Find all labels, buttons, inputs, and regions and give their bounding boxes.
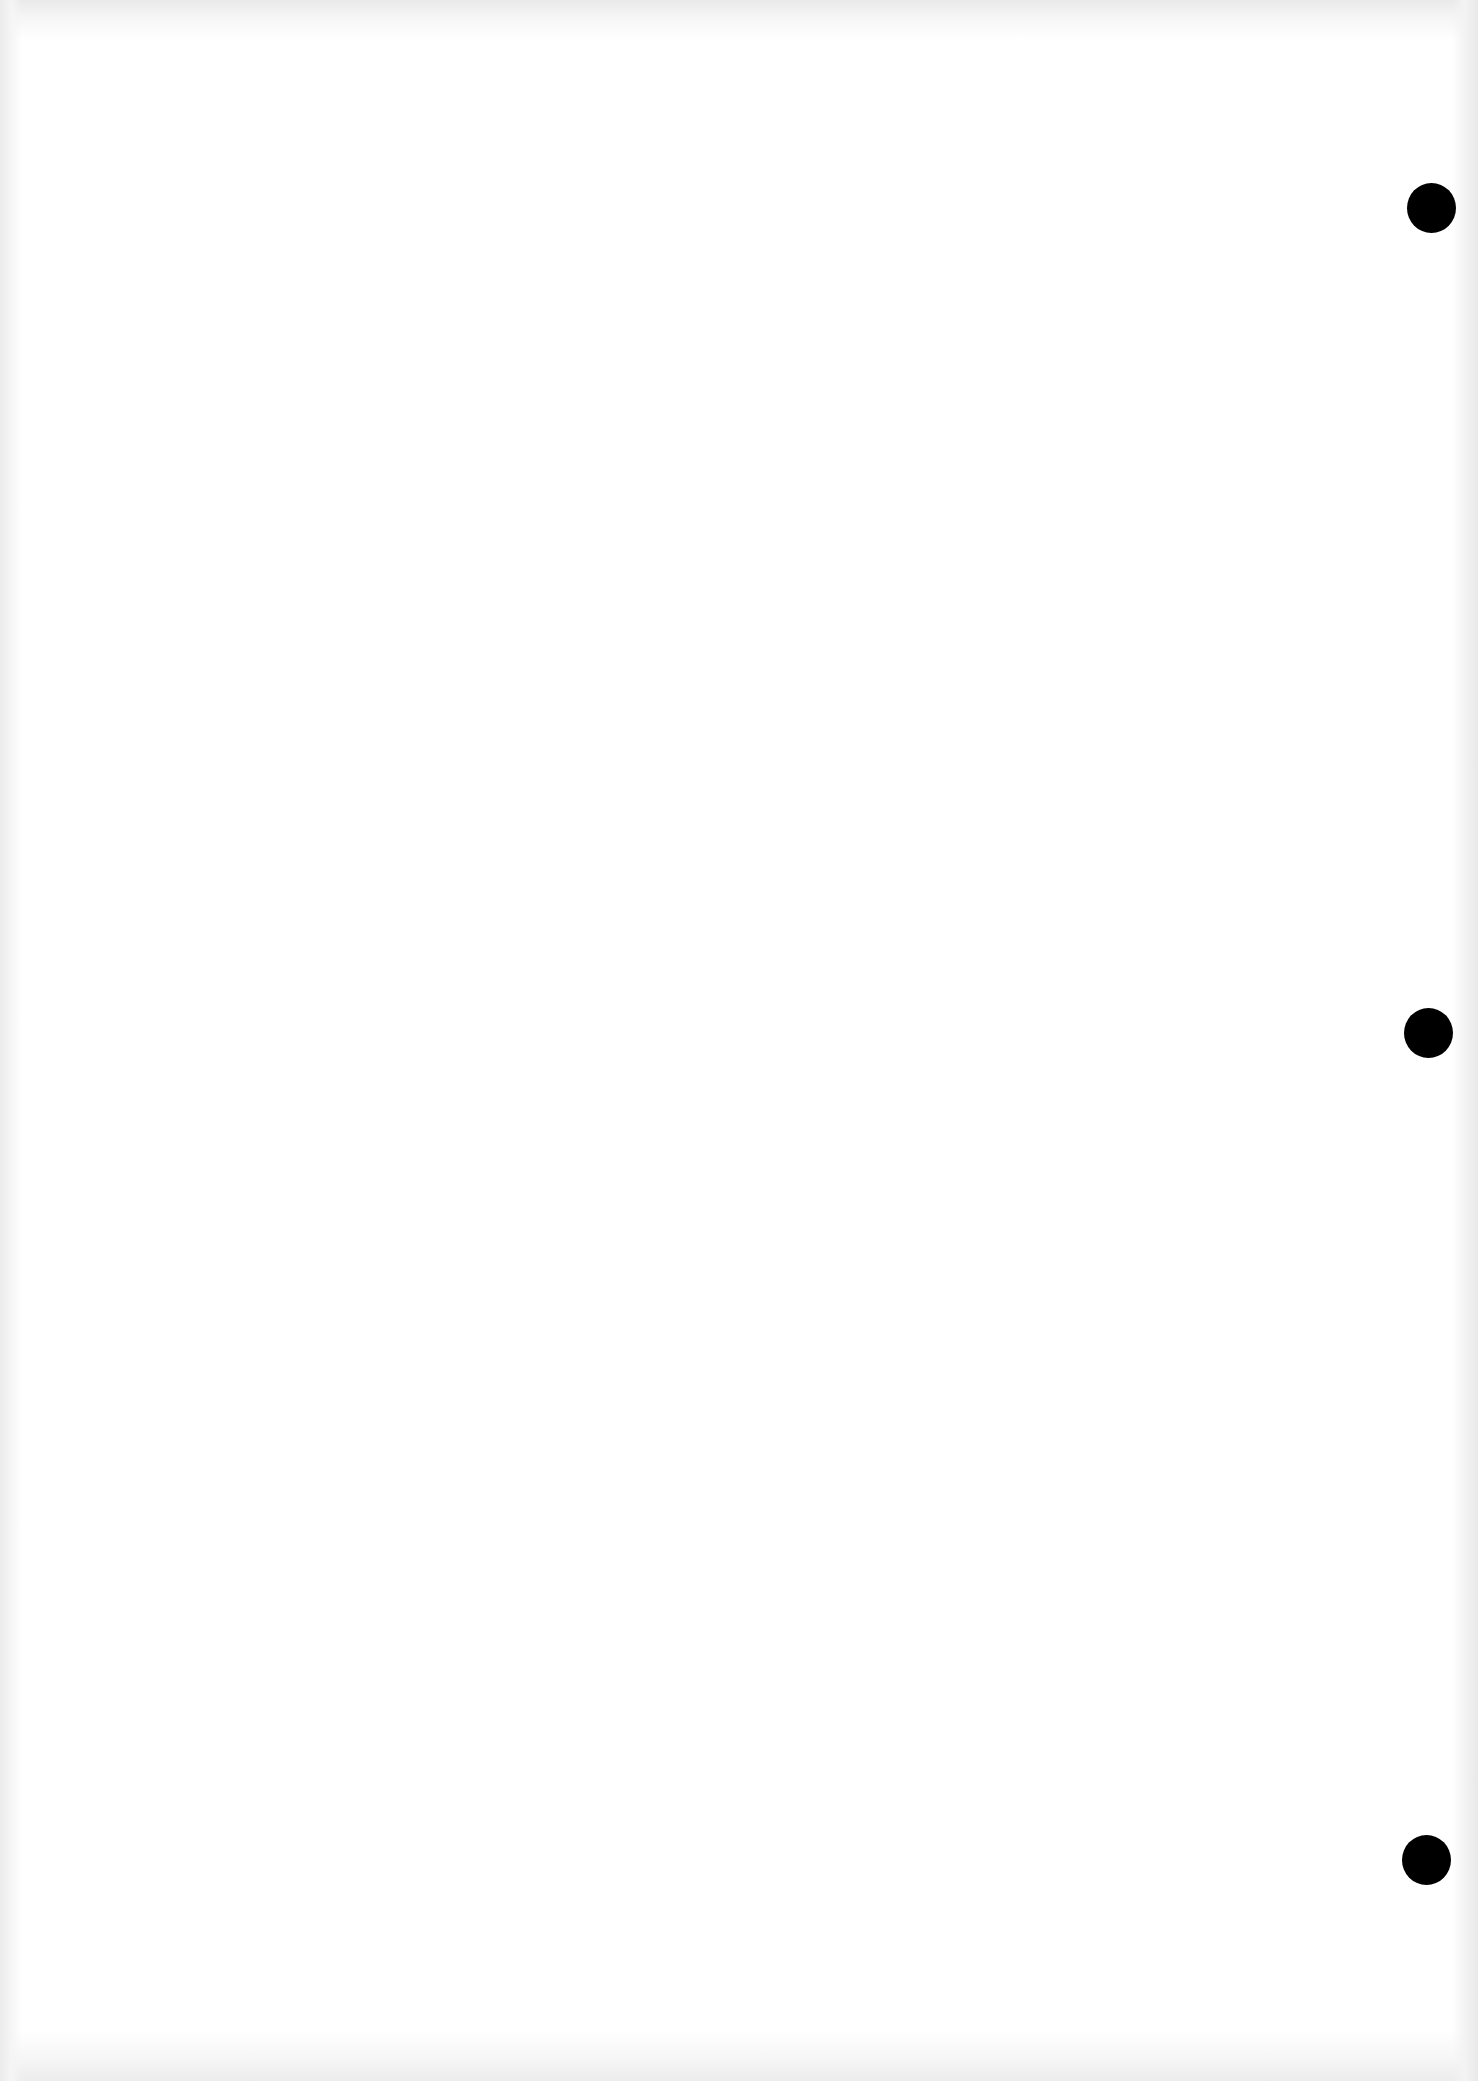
scan-edge-shadow-top — [0, 0, 1478, 40]
punch-hole-bottom — [1402, 1835, 1451, 1885]
scan-edge-shadow-bottom — [0, 2031, 1478, 2081]
scanned-page — [0, 0, 1478, 2081]
punch-hole-top — [1407, 183, 1456, 233]
page-body — [80, 80, 1358, 2001]
scan-edge-shadow-left — [0, 0, 22, 2081]
scan-edge-shadow-right — [1452, 0, 1478, 2081]
punch-hole-middle — [1404, 1008, 1453, 1058]
